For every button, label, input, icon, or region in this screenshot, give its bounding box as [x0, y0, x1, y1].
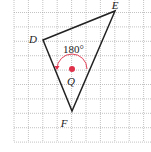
vertex-label-D: D [28, 33, 37, 45]
center-point-Q [69, 66, 75, 72]
vertex-label-E: E [111, 0, 119, 11]
center-label-Q: Q [67, 75, 75, 87]
vertex-label-F: F [60, 117, 68, 129]
triangle-DEF [43, 11, 115, 111]
rotation-diagram: D E F Q 180° [0, 0, 151, 152]
grid [14, 0, 151, 142]
rotation-angle-label: 180° [63, 43, 84, 55]
